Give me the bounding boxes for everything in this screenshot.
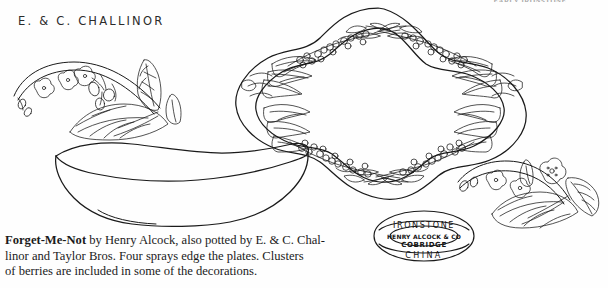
caption: Forget-Me-Not by Henry Alcock, also pott… (5, 233, 305, 280)
catalog-page: EARLY IRONSTONE E. & C. CHALLINOR (0, 0, 608, 288)
caption-line-2: linor and Taylor Bros. Four sprays edge … (5, 249, 305, 265)
pattern-name: Forget-Me-Not (5, 233, 86, 247)
caption-line-1: Forget-Me-Not by Henry Alcock, also pott… (5, 233, 305, 249)
spray-detail-right-illustration (456, 140, 608, 232)
caption-line-1-rest: by Henry Alcock, also potted by E. & C. … (86, 233, 325, 247)
caption-line-3: of berries are included in some of the d… (5, 264, 305, 280)
page-title: E. & C. CHALLINOR (18, 13, 164, 29)
backstamp-line-maker: HENRY ALCOCK & CO (371, 233, 477, 240)
spray-detail-left-illustration (8, 52, 208, 144)
backstamp-line-china: CHINA (371, 251, 477, 260)
backstamp-line-town: COBRIDGE (371, 241, 477, 249)
backstamp-mark: IRONSTONE HENRY ALCOCK & CO COBRIDGE CHI… (371, 208, 477, 266)
backstamp-line-ironstone: IRONSTONE (371, 221, 477, 230)
